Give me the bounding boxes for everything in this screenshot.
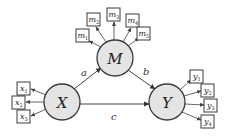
indicator-y2: y2 [201,84,214,97]
indicator-m1: m1 [76,29,89,42]
edge-M-m4 [123,28,131,42]
indicator-x1: x1 [17,82,30,95]
path-label-c: c [111,111,117,122]
indicator-m2: m2 [87,13,100,26]
indicator-x2: x2 [12,96,25,109]
edge-X-x3 [31,109,46,116]
edge-Y-y3 [185,104,204,105]
latent-M-label: M [106,50,123,68]
latent-X-label: X [56,94,69,112]
indicator-x3: x3 [17,110,30,123]
path-b-arrow [128,70,155,89]
indicator-m5: m5 [137,27,150,40]
indicator-y4: y4 [201,115,214,128]
indicator-m3: m3 [107,8,120,21]
edge-Y-y2 [184,91,201,96]
edge-X-x1 [31,89,46,95]
mediation-model-diagram: a b c X M Y x1 x2 x3 m1 m2 m3 m4 [0,0,226,136]
path-a-arrow [74,68,101,89]
edge-M-m1 [89,41,101,47]
edge-Y-y1 [180,80,191,90]
edge-M-m2 [96,27,106,42]
path-label-b: b [143,66,149,77]
latent-Y: Y [149,84,185,120]
edge-Y-y4 [182,112,201,120]
indicator-y1: y1 [190,70,203,83]
indicator-y3: y3 [204,99,217,112]
path-label-a: a [81,67,87,78]
latent-X: X [44,84,80,120]
latent-M: M [97,40,133,76]
indicator-m4: m4 [126,14,139,27]
